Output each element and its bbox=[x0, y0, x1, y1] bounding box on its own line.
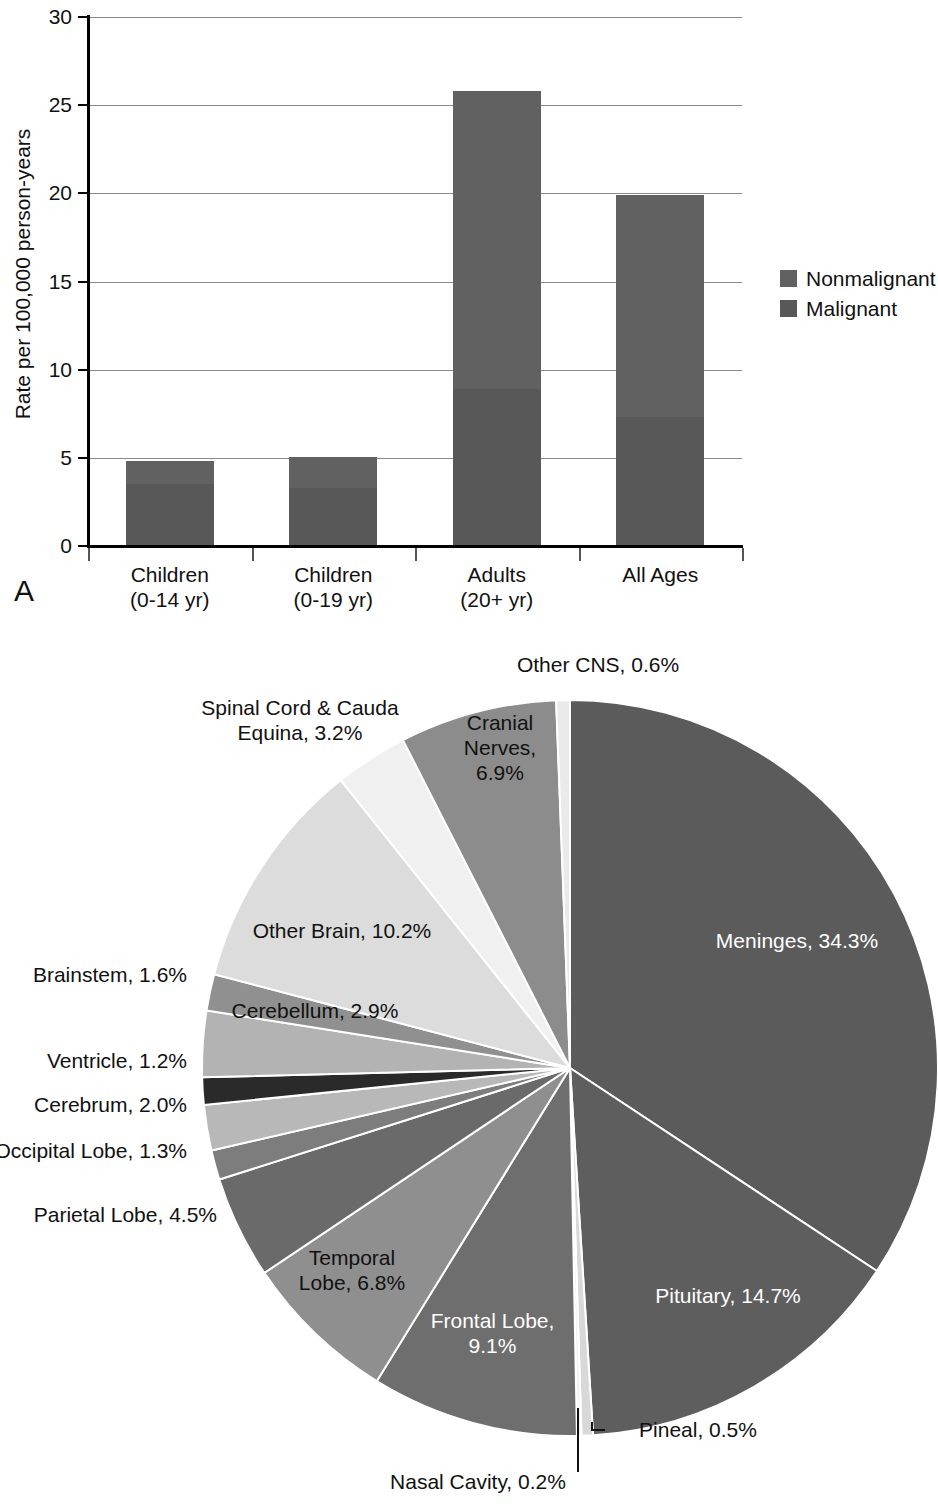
pie-label-meninges: Meninges, 34.3% bbox=[682, 928, 912, 953]
legend-swatch-icon bbox=[780, 300, 797, 317]
bar bbox=[616, 195, 704, 546]
legend-swatch-icon bbox=[780, 270, 797, 287]
pie-label-line: Meninges, 34.3% bbox=[682, 928, 912, 953]
legend-label: Malignant bbox=[806, 298, 897, 319]
pie-label-line: Occipital Lobe, 1.3% bbox=[0, 1138, 187, 1163]
pie-label-other-brain: Other Brain, 10.2% bbox=[217, 918, 467, 943]
bar-segment-nonmalignant bbox=[126, 461, 214, 485]
y-axis-tick bbox=[78, 104, 89, 106]
y-axis-tick bbox=[78, 369, 89, 371]
bar-segment-malignant bbox=[289, 488, 377, 546]
panel-b-pie-chart: Other CNS, 0.6%Spinal Cord & CaudaEquina… bbox=[0, 630, 938, 1512]
pie-label-line: Cerebellum, 2.9% bbox=[200, 998, 430, 1023]
bar-chart-legend: NonmalignantMalignant bbox=[780, 268, 936, 328]
pie-label-ventricle: Ventricle, 1.2% bbox=[0, 1048, 187, 1073]
pie-label-pineal: Pineal, 0.5% bbox=[608, 1417, 788, 1442]
pie-label-line: Frontal Lobe, bbox=[405, 1308, 580, 1333]
pie-label-line: Nerves, bbox=[430, 735, 570, 760]
bar-plot-area bbox=[88, 17, 742, 546]
x-axis-tick bbox=[415, 548, 417, 561]
pie-label-line: Pituitary, 14.7% bbox=[613, 1283, 843, 1308]
x-axis-category-label: All Ages bbox=[575, 562, 745, 587]
pie-label-line: Cerebrum, 2.0% bbox=[0, 1092, 187, 1117]
y-axis-tick bbox=[78, 457, 89, 459]
panel-letter-a: A bbox=[14, 576, 34, 606]
pie-label-cranial-nerves: CranialNerves,6.9% bbox=[430, 710, 570, 785]
pie-label-other-cns: Other CNS, 0.6% bbox=[478, 652, 718, 677]
x-axis-tick bbox=[579, 548, 581, 561]
pie-label-line: Spinal Cord & Cauda bbox=[155, 695, 445, 720]
x-axis-category-line: (20+ yr) bbox=[412, 587, 582, 612]
y-axis-tick bbox=[78, 545, 89, 547]
bar-segment-malignant bbox=[616, 417, 704, 546]
pie-label-frontal-lobe: Frontal Lobe,9.1% bbox=[405, 1308, 580, 1358]
bar-segment-malignant bbox=[453, 389, 541, 546]
pie-label-line: Pineal, 0.5% bbox=[608, 1417, 788, 1442]
x-axis-tick bbox=[742, 548, 744, 561]
y-axis-tick-label: 5 bbox=[60, 447, 72, 468]
x-axis-category-line: (0-19 yr) bbox=[248, 587, 418, 612]
gridline bbox=[88, 17, 742, 18]
bar-segment-nonmalignant bbox=[289, 457, 377, 488]
x-axis-tick bbox=[88, 548, 90, 561]
bar bbox=[453, 91, 541, 546]
y-axis-tick-label: 0 bbox=[60, 535, 72, 556]
pie-label-line: Parietal Lobe, 4.5% bbox=[2, 1202, 217, 1227]
legend-item: Nonmalignant bbox=[780, 268, 936, 289]
x-axis-category-line: Children bbox=[248, 562, 418, 587]
y-axis-tick bbox=[78, 16, 89, 18]
x-axis-category-line: Children bbox=[85, 562, 255, 587]
x-axis-category-label: Children(0-14 yr) bbox=[85, 562, 255, 612]
pie-label-line: Other CNS, 0.6% bbox=[478, 652, 718, 677]
pie-label-cerebellum: Cerebellum, 2.9% bbox=[200, 998, 430, 1023]
pie-label-pituitary: Pituitary, 14.7% bbox=[613, 1283, 843, 1308]
pie-label-occipital-lobe: Occipital Lobe, 1.3% bbox=[0, 1138, 187, 1163]
pie-label-line: Nasal Cavity, 0.2% bbox=[363, 1469, 593, 1494]
x-axis-category-label: Children(0-19 yr) bbox=[248, 562, 418, 612]
bar bbox=[126, 460, 214, 546]
y-axis-tick-label: 25 bbox=[49, 94, 72, 115]
x-axis-category-line: (0-14 yr) bbox=[85, 587, 255, 612]
x-axis-category-label: Adults(20+ yr) bbox=[412, 562, 582, 612]
y-axis-tick-label: 20 bbox=[49, 182, 72, 203]
pie-label-line: Other Brain, 10.2% bbox=[217, 918, 467, 943]
y-axis-tick bbox=[78, 281, 89, 283]
legend-item: Malignant bbox=[780, 298, 936, 319]
pie-label-line: 9.1% bbox=[405, 1333, 580, 1358]
pie-label-brainstem: Brainstem, 1.6% bbox=[0, 962, 187, 987]
x-axis-category-line: Adults bbox=[412, 562, 582, 587]
pie-label-parietal-lobe: Parietal Lobe, 4.5% bbox=[2, 1202, 217, 1227]
pie-label-nasal-cavity: Nasal Cavity, 0.2% bbox=[363, 1469, 593, 1494]
y-axis-title: Rate per 100,000 person-years bbox=[11, 39, 35, 509]
y-axis-tick-label: 15 bbox=[49, 271, 72, 292]
pie-label-line: Lobe, 6.8% bbox=[272, 1270, 432, 1295]
pie-label-temporal-lobe: TemporalLobe, 6.8% bbox=[272, 1245, 432, 1295]
y-axis-tick bbox=[78, 192, 89, 194]
x-axis-category-line: All Ages bbox=[575, 562, 745, 587]
bar-segment-nonmalignant bbox=[453, 91, 541, 389]
pie-label-spinal-cord: Spinal Cord & CaudaEquina, 3.2% bbox=[155, 695, 445, 745]
bar bbox=[289, 457, 377, 546]
y-axis-tick-label: 10 bbox=[49, 359, 72, 380]
x-axis-tick bbox=[252, 548, 254, 561]
bar-segment-nonmalignant bbox=[616, 195, 704, 417]
pie-label-line: Equina, 3.2% bbox=[155, 720, 445, 745]
panel-a-bar-chart: 051015202530 Rate per 100,000 person-yea… bbox=[0, 0, 938, 630]
gridline bbox=[88, 105, 742, 106]
legend-label: Nonmalignant bbox=[806, 268, 936, 289]
pie-label-line: Temporal bbox=[272, 1245, 432, 1270]
pie-label-line: Ventricle, 1.2% bbox=[0, 1048, 187, 1073]
pie-label-line: Cranial bbox=[430, 710, 570, 735]
pie-label-line: Brainstem, 1.6% bbox=[0, 962, 187, 987]
y-axis-tick-label: 30 bbox=[49, 6, 72, 27]
bar-segment-malignant bbox=[126, 484, 214, 546]
pie-label-cerebrum: Cerebrum, 2.0% bbox=[0, 1092, 187, 1117]
pie-label-line: 6.9% bbox=[430, 760, 570, 785]
